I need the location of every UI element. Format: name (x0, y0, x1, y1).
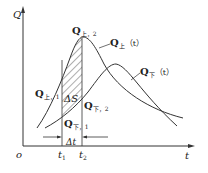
hydrograph-diagram (0, 0, 208, 173)
delta-t-right-arrowhead-icon (82, 136, 87, 139)
upstream-label-leader (99, 44, 110, 48)
upstream-curve-label: Q上（t） (110, 38, 144, 49)
y-axis-arrow-icon (21, 6, 25, 13)
q-down-1-label: Q下，1 (64, 119, 89, 130)
y-axis-label: Q (13, 10, 21, 20)
q-up-1-label: Q上，1 (35, 89, 60, 100)
q-down-2-label: Q下，2 (84, 101, 109, 112)
t2-label: t2 (79, 150, 87, 161)
x-axis-label: t (185, 151, 189, 161)
origin-label: o (16, 150, 22, 160)
q-up-2-label: Q上，2 (72, 26, 97, 37)
x-axis-arrow-icon (188, 144, 195, 148)
t1-label: t1 (58, 150, 66, 161)
delta-t-left-arrowhead-icon (57, 136, 62, 139)
downstream-label-leader (131, 73, 140, 80)
delta-t-label: Δt (66, 138, 76, 147)
delta-s-label: ΔS (64, 94, 78, 104)
upstream-curve (37, 37, 183, 128)
downstream-curve-label: Q下（t） (140, 67, 174, 78)
